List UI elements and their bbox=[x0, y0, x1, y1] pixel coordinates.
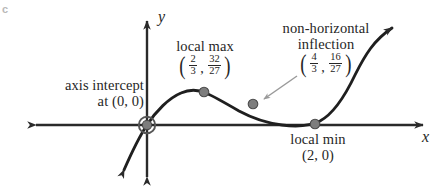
annotation-axis-intercept: axis intercept at (0, 0) bbox=[38, 77, 144, 109]
coord-comma: , bbox=[320, 60, 327, 76]
inflection-x-fraction: 4 3 bbox=[309, 52, 319, 75]
left-paren: ( bbox=[179, 56, 185, 76]
annotation-inflection: non-horizontal inflection ( 4 3 , 16 27 … bbox=[262, 20, 390, 76]
axis-intercept-line1: axis intercept bbox=[38, 77, 144, 93]
axis-intercept-coords: (0, 0) bbox=[112, 93, 144, 109]
inflection-title-line2: inflection bbox=[262, 36, 390, 52]
point-local-max bbox=[199, 87, 209, 97]
point-inflection bbox=[248, 99, 258, 109]
inflection-y-fraction: 16 27 bbox=[328, 52, 344, 75]
local-min-coords: (2, 0) bbox=[262, 147, 374, 163]
annotation-local-min: local min (2, 0) bbox=[262, 131, 374, 163]
coord-comma: , bbox=[199, 61, 206, 77]
y-axis-label: y bbox=[158, 8, 165, 26]
local-max-y-fraction: 32 27 bbox=[207, 54, 223, 77]
calculus-curve-figure: c y x axis interc bbox=[0, 0, 446, 195]
axis-intercept-line2: at (0, 0) bbox=[38, 93, 144, 109]
local-max-title: local max bbox=[150, 38, 260, 54]
axis-intercept-at-word: at bbox=[98, 93, 112, 109]
right-paren: ) bbox=[224, 56, 230, 76]
x-axis-label: x bbox=[422, 128, 429, 146]
inflection-pointer-line bbox=[264, 76, 297, 99]
inflection-coords: ( 4 3 , 16 27 ) bbox=[299, 52, 353, 75]
annotation-local-max: local max ( 2 3 , 32 27 ) bbox=[150, 38, 260, 77]
inflection-title-line1: non-horizontal bbox=[262, 20, 390, 36]
local-max-coords: ( 2 3 , 32 27 ) bbox=[178, 54, 232, 77]
point-axis-intercept bbox=[142, 120, 151, 129]
local-min-title: local min bbox=[262, 131, 374, 147]
left-paren: ( bbox=[300, 54, 306, 74]
point-local-min bbox=[310, 119, 320, 129]
local-max-x-fraction: 2 3 bbox=[188, 54, 198, 77]
right-paren: ) bbox=[345, 54, 351, 74]
